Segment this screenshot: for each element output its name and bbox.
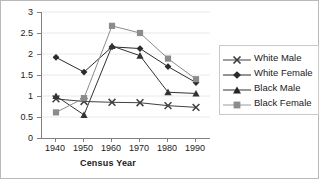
y-axis-tick-label: 3 xyxy=(1,8,33,17)
cross-marker-icon xyxy=(223,52,251,64)
chart-legend: White Male White Female Black Male xyxy=(219,45,319,115)
y-axis-tick-label: 0 xyxy=(1,134,33,143)
x-axis-title: Census Year xyxy=(1,158,215,168)
y-axis-tick-label: 1.5 xyxy=(1,71,33,80)
legend-item-black-male[interactable]: Black Male xyxy=(223,80,313,95)
x-axis-tick xyxy=(167,138,168,142)
triangle-marker xyxy=(80,111,87,118)
y-axis-tick-label: 2.5 xyxy=(1,29,33,38)
data-series-layer xyxy=(42,12,210,138)
series-white-female xyxy=(53,43,200,86)
chart-figure: 00.511.522.53 194019501960197019801990 C… xyxy=(0,0,319,179)
square-marker xyxy=(165,56,171,62)
y-axis-tick-label: 0.5 xyxy=(1,113,33,122)
square-marker xyxy=(109,23,115,29)
y-axis-tick-label: 2 xyxy=(1,50,33,59)
x-axis-tick-label: 1990 xyxy=(175,144,215,153)
square-marker xyxy=(193,76,199,82)
legend-label: Black Female xyxy=(251,97,312,108)
triangle-marker xyxy=(108,42,115,49)
plot-frame xyxy=(41,12,210,139)
series-black-female xyxy=(53,23,199,116)
legend-label: Black Male xyxy=(251,82,300,93)
diamond-marker xyxy=(165,63,172,70)
legend-item-white-male[interactable]: White Male xyxy=(223,50,313,65)
x-axis-tick xyxy=(55,138,56,142)
legend-item-white-female[interactable]: White Female xyxy=(223,65,313,80)
x-axis-tick xyxy=(83,138,84,142)
legend-label: White Male xyxy=(251,52,302,63)
chart-plot-region: 00.511.522.53 194019501960197019801990 C… xyxy=(1,1,215,179)
diamond-marker xyxy=(137,45,144,52)
y-axis-tick-label: 1 xyxy=(1,92,33,101)
square-marker-icon xyxy=(223,97,251,109)
x-axis-tick xyxy=(195,138,196,142)
square-marker xyxy=(137,30,143,36)
x-axis-tick xyxy=(139,138,140,142)
square-marker xyxy=(53,109,59,115)
square-marker xyxy=(81,95,87,101)
triangle-marker-icon xyxy=(223,82,251,94)
diamond-marker-icon xyxy=(223,67,251,79)
diamond-marker xyxy=(53,54,60,61)
triangle-marker xyxy=(136,52,143,59)
legend-label: White Female xyxy=(251,67,313,78)
legend-item-black-female[interactable]: Black Female xyxy=(223,95,313,110)
x-axis-tick xyxy=(111,138,112,142)
